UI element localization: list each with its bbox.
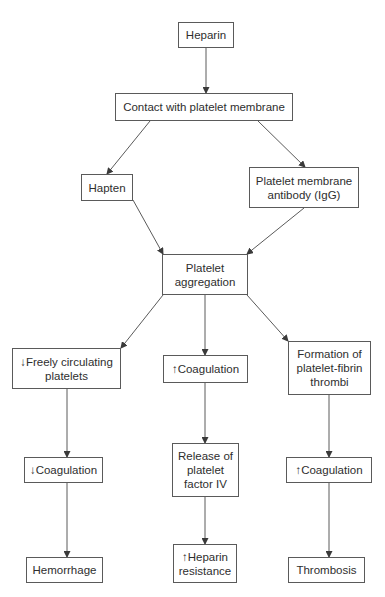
node-coagulation-increase-middle: ↑Coagulation [163,355,248,383]
edge-antibody-aggregation [247,208,304,254]
edge-hapten-aggregation [133,200,163,254]
edge-aggregation-formation [247,295,288,341]
node-heparin: Heparin [178,22,234,48]
node-platelet-membrane-antibody: Platelet membrane antibody (IgG) [249,167,359,208]
node-heparin-resistance: ↑Heparin resistance [173,544,237,583]
edge-layer [0,0,385,597]
edge-aggregation-freely [121,295,163,348]
node-coagulation-increase-right: ↑Coagulation [286,457,372,483]
node-freely-circulating-platelets: ↓Freely circulating platelets [12,348,121,389]
node-coagulation-decrease-left: ↓Coagulation [24,457,103,483]
edge-contact-antibody [258,121,305,167]
flowchart: Heparin Contact with platelet membrane H… [0,0,385,597]
node-contact-with-platelet-membrane: Contact with platelet membrane [115,93,293,121]
node-hemorrhage: Hemorrhage [26,557,103,583]
node-release-of-platelet-factor-iv: Release of platelet factor IV [172,443,239,497]
node-platelet-aggregation: Platelet aggregation [162,254,248,295]
edge-contact-hapten [107,121,150,174]
node-hapten: Hapten [81,174,133,201]
node-thrombosis: Thrombosis [288,557,365,583]
node-formation-of-thrombi: Formation of platelet-fibrin thrombi [288,341,371,395]
